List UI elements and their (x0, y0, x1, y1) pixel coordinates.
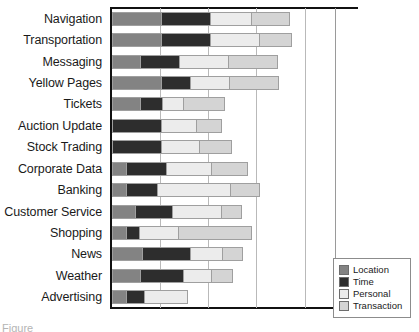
bar-segment-transaction[interactable] (211, 270, 232, 282)
bar-segment-transaction[interactable] (228, 56, 277, 68)
category-label-column: NavigationTransportationMessagingYellow … (0, 8, 108, 308)
category-label: News (0, 244, 108, 265)
bar-segment-time[interactable] (142, 248, 190, 260)
bar-segment-location[interactable] (113, 227, 126, 239)
bar-segment-personal[interactable] (157, 184, 230, 196)
bar-row (112, 137, 335, 158)
category-label: Yellow Pages (0, 72, 108, 93)
stacked-bar[interactable] (112, 183, 260, 197)
bar-segment-personal[interactable] (166, 163, 211, 175)
bar-segment-time[interactable] (161, 77, 190, 89)
bar-series-container (112, 8, 335, 308)
legend-label: Transaction (353, 300, 402, 311)
stacked-bar[interactable] (112, 12, 290, 26)
bar-segment-location[interactable] (113, 291, 126, 303)
bar-segment-time[interactable] (135, 206, 172, 218)
bar-row (112, 72, 335, 93)
legend-swatch-icon (339, 289, 349, 299)
bar-row (112, 115, 335, 136)
bar-segment-location[interactable] (113, 56, 140, 68)
chart-page: NavigationTransportationMessagingYellow … (0, 0, 419, 332)
category-label: Advertising (0, 286, 108, 307)
bar-segment-personal[interactable] (190, 77, 229, 89)
bar-segment-personal[interactable] (210, 34, 259, 46)
legend-label: Personal (353, 288, 391, 299)
bar-row (112, 179, 335, 200)
bar-segment-transaction[interactable] (178, 227, 251, 239)
legend-label: Time (353, 276, 374, 287)
bar-segment-time[interactable] (126, 184, 157, 196)
bar-segment-personal[interactable] (161, 120, 196, 132)
bar-segment-time[interactable] (140, 56, 179, 68)
bar-segment-time[interactable] (126, 291, 144, 303)
stacked-bar[interactable] (112, 247, 243, 261)
bar-segment-transaction[interactable] (196, 120, 221, 132)
bar-segment-transaction[interactable] (251, 13, 289, 25)
bar-segment-location[interactable] (113, 163, 126, 175)
bar-segment-personal[interactable] (144, 291, 187, 303)
legend-swatch-icon (339, 301, 349, 311)
bar-segment-location[interactable] (113, 13, 161, 25)
bar-segment-location[interactable] (113, 270, 140, 282)
bar-segment-transaction[interactable] (211, 163, 247, 175)
bar-segment-transaction[interactable] (229, 77, 278, 89)
legend-item[interactable]: Transaction (339, 300, 405, 311)
category-label: Corporate Data (0, 158, 108, 179)
bar-segment-transaction[interactable] (221, 206, 241, 218)
category-label: Messaging (0, 51, 108, 72)
bar-segment-transaction[interactable] (230, 184, 259, 196)
stacked-bar[interactable] (112, 119, 222, 133)
bar-segment-location[interactable] (113, 184, 126, 196)
bar-segment-personal[interactable] (183, 270, 211, 282)
bar-row (112, 51, 335, 72)
bar-segment-personal[interactable] (161, 141, 199, 153)
bar-segment-transaction[interactable] (222, 248, 242, 260)
category-label: Weather (0, 265, 108, 286)
legend-item[interactable]: Personal (339, 288, 405, 299)
category-label: Auction Update (0, 115, 108, 136)
stacked-bar[interactable] (112, 205, 242, 219)
bar-segment-personal[interactable] (172, 206, 221, 218)
category-label: Tickets (0, 94, 108, 115)
stacked-bar[interactable] (112, 290, 188, 304)
bar-row (112, 244, 335, 265)
bar-segment-time[interactable] (161, 13, 210, 25)
legend-item[interactable]: Location (339, 264, 405, 275)
bar-segment-personal[interactable] (179, 56, 228, 68)
figure-caption: Figure (2, 322, 417, 332)
stacked-bar[interactable] (112, 269, 233, 283)
category-label: Banking (0, 179, 108, 200)
bar-segment-personal[interactable] (162, 98, 183, 110)
bar-segment-time[interactable] (140, 270, 183, 282)
bar-segment-time[interactable] (113, 120, 161, 132)
chart-legend: LocationTimePersonalTransaction (333, 258, 411, 318)
bar-segment-transaction[interactable] (183, 98, 224, 110)
bar-row (112, 222, 335, 243)
bar-segment-personal[interactable] (210, 13, 251, 25)
bar-row (112, 8, 335, 29)
bar-segment-time[interactable] (126, 163, 166, 175)
bar-segment-transaction[interactable] (259, 34, 291, 46)
bar-segment-personal[interactable] (190, 248, 222, 260)
bar-segment-personal[interactable] (139, 227, 178, 239)
stacked-bar[interactable] (112, 140, 232, 154)
stacked-bar[interactable] (112, 226, 252, 240)
bar-segment-location[interactable] (113, 77, 161, 89)
bar-segment-transaction[interactable] (199, 141, 231, 153)
category-label: Customer Service (0, 201, 108, 222)
bar-segment-location[interactable] (113, 34, 161, 46)
stacked-bar[interactable] (112, 162, 248, 176)
bar-row (112, 29, 335, 50)
stacked-bar[interactable] (112, 76, 279, 90)
bar-segment-location[interactable] (113, 206, 135, 218)
stacked-bar[interactable] (112, 33, 292, 47)
bar-segment-time[interactable] (140, 98, 162, 110)
bar-segment-time[interactable] (126, 227, 139, 239)
bar-segment-time[interactable] (161, 34, 210, 46)
legend-item[interactable]: Time (339, 276, 405, 287)
bar-segment-location[interactable] (113, 248, 142, 260)
bar-segment-time[interactable] (113, 141, 161, 153)
stacked-bar[interactable] (112, 55, 278, 69)
stacked-bar[interactable] (112, 97, 225, 111)
bar-segment-location[interactable] (113, 98, 140, 110)
